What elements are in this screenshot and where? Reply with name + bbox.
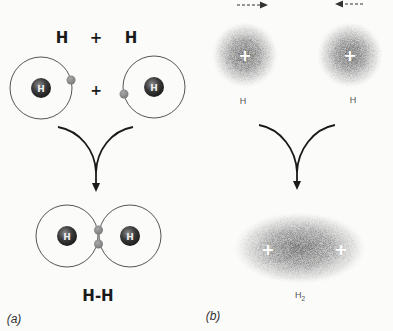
product-subscript: 2 (301, 295, 305, 302)
molecule-cloud-h2: + + (234, 212, 366, 284)
atom-label-right: H (350, 95, 357, 105)
nucleus-label: H (126, 232, 134, 242)
nucleus-label: H (37, 84, 45, 94)
bond-formation-diagram: H + H H + H H (0, 0, 393, 331)
electron (67, 76, 76, 85)
atoms-plus: + (90, 82, 102, 98)
nucleus-plus-icon: + (343, 46, 356, 65)
shared-electron (94, 240, 103, 249)
atom-label-left: H (240, 96, 247, 106)
atom-left: H (10, 57, 76, 119)
converging-arrow (259, 125, 335, 190)
atom-cloud-right: + (317, 22, 383, 88)
atom-right: H (120, 56, 186, 118)
panel-label-b: (b) (206, 309, 221, 323)
nucleus-plus-icon: + (334, 240, 347, 259)
panel-a: H + H H + H H (7, 29, 185, 326)
product-label-h-h: H-H (82, 287, 113, 305)
equation-plus: + (90, 29, 103, 47)
nucleus-label: H (150, 83, 158, 93)
electron (120, 90, 129, 99)
atom-cloud-left: + (212, 22, 278, 88)
equation-h-left: H (56, 29, 69, 47)
molecule-h2-orbitals: H H (36, 205, 161, 267)
product-label-h2: H2 (295, 290, 306, 302)
shared-electron (94, 226, 103, 235)
converging-arrow (58, 127, 133, 192)
panel-label-a: (a) (7, 312, 22, 326)
nucleus-plus-icon: + (261, 240, 274, 259)
nucleus-label: H (63, 232, 71, 242)
nucleus-plus-icon: + (238, 46, 251, 65)
panel-b: + H + H + + H2 (b) (206, 1, 383, 324)
approach-arrows (237, 1, 365, 9)
equation-h-right: H (125, 29, 138, 47)
